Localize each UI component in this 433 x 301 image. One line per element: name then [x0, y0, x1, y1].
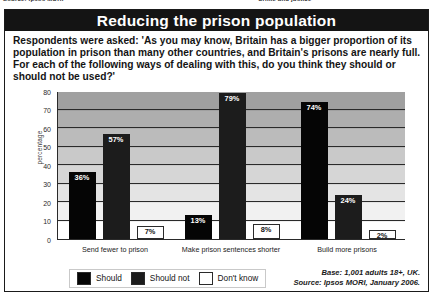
legend-swatch-should: [77, 272, 91, 285]
y-tick-label: 20: [29, 200, 51, 207]
strip-text-left: Source: Ipsos MORI: [3, 0, 64, 2]
footnote-base: Base: 1,001 adults 18+, UK.: [205, 268, 420, 278]
bar-value-label: 36%: [69, 174, 96, 182]
bar-dontknow-1: 8%: [253, 224, 280, 239]
legend-item-shouldnot[interactable]: Should not: [131, 272, 190, 285]
bar-should-1: 13%: [185, 215, 212, 239]
page-header-strip: Source: Ipsos MORI Crime and justice: [0, 0, 433, 8]
x-category-label: Build more prisons: [289, 246, 405, 254]
bar-dontknow-2: 2%: [369, 230, 396, 239]
bar-dontknow-0: 7%: [137, 226, 164, 239]
bar-shouldnot-2: 24%: [335, 195, 362, 239]
figure-root: Source: Ipsos MORI Crime and justice Red…: [0, 0, 433, 301]
x-category-label: Make prison sentences shorter: [173, 246, 289, 254]
bar-value-label: 8%: [254, 226, 279, 234]
footnote-source: Source: Ipsos MORI, January 2006.: [205, 278, 420, 288]
y-tick-label: 50: [29, 144, 51, 151]
legend-label: Should not: [150, 274, 190, 283]
strip-text-right: Crime and justice: [258, 0, 311, 2]
bar-value-label: 57%: [103, 136, 130, 144]
chart-panel: Reducing the prison population Responden…: [4, 9, 429, 292]
title-bar: Reducing the prison population: [5, 10, 428, 31]
plot-area: 36%57%7%13%79%8%74%24%2%: [57, 92, 405, 240]
bar-should-2: 74%: [301, 102, 328, 239]
bar-value-label: 74%: [301, 104, 328, 112]
bar-value-label: 24%: [335, 197, 362, 205]
y-tick-label: 80: [29, 89, 51, 96]
question-text: Respondents were asked: 'As you may know…: [13, 35, 421, 83]
legend-swatch-shouldnot: [131, 272, 145, 285]
legend-item-should[interactable]: Should: [77, 272, 122, 285]
y-tick-label: 40: [29, 163, 51, 170]
bar-value-label: 2%: [370, 232, 395, 240]
bar-value-label: 79%: [219, 95, 246, 103]
y-tick-label: 0: [29, 237, 51, 244]
footnote-block: Base: 1,001 adults 18+, UK. Source: Ipso…: [205, 268, 420, 287]
bar-shouldnot-1: 79%: [219, 93, 246, 239]
bar-should-0: 36%: [69, 172, 96, 239]
bar-value-label: 7%: [138, 228, 163, 236]
y-tick-label: 30: [29, 181, 51, 188]
y-tick-label: 60: [29, 126, 51, 133]
bar-value-label: 13%: [185, 217, 212, 225]
x-category-label: Send fewer to prison: [57, 246, 173, 254]
y-tick-label: 10: [29, 218, 51, 225]
y-tick-label: 70: [29, 107, 51, 114]
bar-chart: percentage 01020304050607080 36%57%7%13%…: [13, 86, 421, 266]
page-title: Reducing the prison population: [5, 12, 428, 29]
legend-label: Should: [96, 274, 122, 283]
bar-shouldnot-0: 57%: [103, 134, 130, 239]
